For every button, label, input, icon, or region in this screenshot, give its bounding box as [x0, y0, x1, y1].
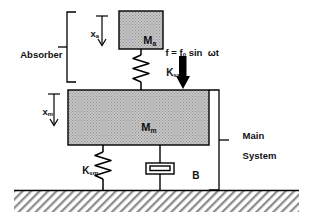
damper-label: B [181, 160, 199, 192]
hatched-ground-icon [14, 190, 299, 212]
absorber-displacement-label: xa [80, 19, 99, 49]
main-system-bracket-label: Main System [232, 121, 276, 171]
absorber-mass-label: Ma [131, 23, 156, 58]
main-mass-label: Mm [129, 110, 156, 145]
main-system-line1: Main [243, 130, 265, 141]
force-equation-head: f = f [166, 47, 183, 58]
absorber-label-text: Absorber [20, 49, 62, 60]
damper-symbol: B [192, 170, 199, 181]
force-equation-label: f = f0 sin ωt [155, 38, 219, 68]
main-spring-subscript: sm [89, 169, 98, 176]
right-bracket-icon [209, 90, 229, 190]
force-equation-tail: sin ωt [186, 47, 219, 58]
diagram-canvas: Absorber Main System Ma Mm Ksa Ksm B xa … [0, 0, 313, 222]
main-system-line2: System [243, 150, 277, 161]
main-displacement-label: xm [32, 97, 53, 127]
absorber-spring-subscript: sa [173, 71, 180, 78]
absorber-bracket-label: Absorber [10, 40, 62, 70]
dashpot-damper-icon [146, 145, 174, 190]
main-displacement-subscript: m [48, 111, 53, 117]
absorber-displacement-subscript: a [96, 33, 99, 39]
main-spring-label: Ksm [71, 155, 98, 187]
main-mass-subscript: m [150, 126, 156, 133]
